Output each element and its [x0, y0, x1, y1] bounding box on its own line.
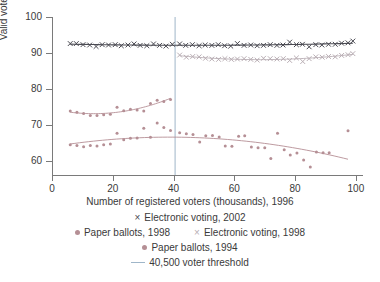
data-point	[216, 57, 221, 62]
data-point	[302, 158, 305, 161]
data-point	[156, 99, 159, 102]
y-tick-label: 100	[0, 11, 42, 22]
data-point	[315, 151, 318, 154]
legend-entry: ×Electronic voting, 1998	[194, 227, 305, 238]
x-tick-label: 100	[348, 183, 365, 194]
data-point	[95, 144, 98, 147]
data-point	[257, 146, 260, 149]
data-point	[170, 42, 175, 47]
data-point	[149, 102, 152, 105]
data-point	[75, 111, 78, 114]
data-point	[243, 134, 246, 137]
x-tick-mark	[113, 175, 114, 181]
legend-entry: Paper ballots, 1998	[75, 227, 170, 238]
data-point	[149, 136, 152, 139]
data-point	[228, 44, 233, 49]
data-point	[102, 143, 105, 146]
y-axis-label: Valid votes (%)	[0, 0, 9, 52]
trend-line	[70, 98, 170, 113]
data-point	[136, 109, 139, 112]
data-point	[129, 108, 132, 111]
data-point	[211, 134, 214, 137]
x-tick-mark	[295, 175, 296, 181]
data-point	[216, 42, 221, 47]
data-point	[300, 59, 305, 64]
data-point	[164, 44, 169, 49]
data-point	[89, 114, 92, 117]
legend-label: Paper ballots, 1998	[84, 227, 170, 238]
series-2	[69, 98, 172, 117]
data-point	[122, 109, 125, 112]
data-point	[129, 137, 132, 140]
data-point	[122, 138, 125, 141]
data-point	[102, 113, 105, 116]
data-point	[162, 100, 165, 103]
data-point	[82, 112, 85, 115]
data-point	[322, 151, 325, 154]
data-point	[74, 41, 79, 46]
data-point	[142, 127, 145, 130]
data-point	[82, 145, 85, 148]
data-point	[263, 146, 266, 149]
data-point	[209, 57, 214, 62]
legend-label: Paper ballots, 1994	[151, 242, 237, 253]
x-axis-label: Number of registered voters (thousands),…	[0, 196, 380, 207]
y-tick-label: 70	[0, 119, 42, 130]
data-point	[136, 137, 139, 140]
legend-row: 40,500 voter threshold	[0, 255, 380, 270]
data-point	[319, 43, 324, 48]
data-point	[350, 51, 355, 56]
data-point	[192, 133, 195, 136]
data-point	[287, 40, 292, 45]
data-point	[177, 53, 182, 58]
data-point	[119, 43, 124, 48]
data-point	[178, 131, 181, 134]
data-point	[237, 135, 240, 138]
data-point	[269, 157, 272, 160]
data-point	[95, 114, 98, 117]
data-point	[255, 58, 260, 63]
data-point	[283, 148, 286, 151]
data-point	[109, 143, 112, 146]
series-3	[69, 121, 350, 168]
data-point	[75, 144, 78, 147]
data-point	[224, 144, 227, 147]
trend-line	[70, 137, 348, 159]
x-tick-label: 60	[229, 183, 240, 194]
x-tick-label: 0	[49, 183, 55, 194]
data-point	[347, 129, 350, 132]
legend-label: Electronic voting, 2002	[144, 212, 245, 223]
legend-row: Paper ballots, 1998×Electronic voting, 1…	[0, 225, 380, 240]
data-point	[350, 39, 355, 44]
data-point	[268, 56, 273, 61]
y-tick-label: 80	[0, 83, 42, 94]
legend-row: ×Electronic voting, 2002	[0, 210, 380, 225]
data-point	[295, 152, 298, 155]
data-point	[230, 145, 233, 148]
y-tick-label: 90	[0, 47, 42, 58]
plot-area	[52, 17, 362, 175]
data-point	[276, 132, 279, 135]
data-point	[142, 110, 145, 113]
data-point	[309, 166, 312, 169]
x-tick-mark	[52, 175, 53, 181]
data-point	[69, 110, 72, 113]
scatter-plot-canvas	[52, 17, 362, 175]
x-axis-line	[52, 175, 363, 176]
data-point	[156, 121, 159, 124]
x-tick-mark	[356, 175, 357, 181]
data-point	[109, 113, 112, 116]
y-tick-label: 60	[0, 155, 42, 166]
series-0	[68, 39, 355, 50]
legend-entry: 40,500 voter threshold	[131, 257, 249, 268]
chart-legend: ×Electronic voting, 2002Paper ballots, 1…	[0, 210, 380, 270]
data-point	[169, 129, 172, 132]
x-tick-mark	[234, 175, 235, 181]
legend-entry: Paper ballots, 1994	[142, 242, 237, 253]
data-point	[281, 56, 286, 61]
x-tick-mark	[174, 175, 175, 181]
data-point	[198, 140, 201, 143]
data-point	[289, 153, 292, 156]
legend-dot-marker-icon	[142, 245, 147, 250]
legend-label: 40,500 voter threshold	[149, 257, 249, 268]
